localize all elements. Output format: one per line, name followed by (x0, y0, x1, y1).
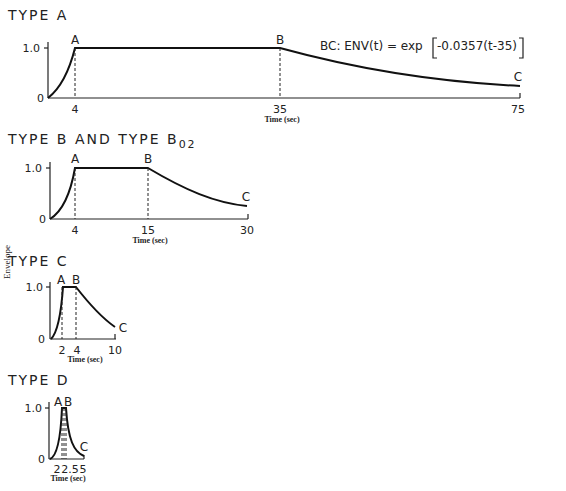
decay-equation: BC: ENV(t) = exp -0.0357(t-35) (320, 38, 523, 58)
x-axis-label: Time (sec) (264, 115, 300, 124)
equation-argument: -0.0357(t-35) (437, 39, 517, 53)
right-bracket (519, 38, 523, 58)
x-tick-label: 4 (72, 103, 79, 116)
x-axis-label: Time (sec) (67, 355, 103, 364)
point-label-c: C (119, 321, 127, 335)
point-label-b: B (64, 395, 72, 409)
x-tick-label: 10 (108, 344, 122, 357)
point-label-a: A (71, 152, 80, 166)
point-label-b: B (144, 152, 152, 166)
y-tick-label: 0 (39, 213, 46, 226)
y-tick-label: 0 (37, 92, 44, 105)
envelope-figure: Envelope TYPE A 1.0 0 A B C 4 35 75 Time… (0, 0, 566, 491)
point-label-a: A (57, 273, 66, 287)
equation-lhs: BC: ENV(t) = exp (320, 39, 423, 53)
chart-type-b: TYPE B AND TYPE B02 1.0 0 A B C 4 15 30 … (7, 131, 254, 245)
y-tick-label: 0 (38, 453, 45, 466)
point-label-b: B (276, 33, 284, 47)
x-axis-label: Time (sec) (132, 236, 168, 245)
envelope-curve (48, 48, 520, 98)
point-label-a: A (71, 33, 80, 47)
envelope-curve (51, 287, 115, 339)
chart-title: TYPE C (7, 253, 69, 269)
x-tick-label: 75 (511, 103, 525, 116)
point-label-c: C (80, 440, 88, 454)
title-main: TYPE B AND TYPE B (7, 131, 179, 147)
chart-title: TYPE D (7, 372, 70, 388)
point-label-c: C (514, 70, 522, 84)
chart-type-a: TYPE A 1.0 0 A B C 4 35 75 Time (sec) BC… (7, 7, 525, 124)
x-tick-label: 2 (59, 344, 66, 357)
y-tick-label: 1.0 (25, 402, 43, 415)
point-label-b: B (72, 273, 80, 287)
chart-type-d: TYPE D 1.0 0 A B C 2 2.5 5 Time (sec) (7, 372, 88, 483)
y-tick-label: 1.0 (26, 281, 44, 294)
chart-title: TYPE B AND TYPE B02 (7, 131, 197, 151)
y-tick-label: 0 (38, 333, 45, 346)
chart-title: TYPE A (7, 7, 68, 23)
x-tick-label: 30 (240, 224, 254, 237)
title-subscript: 02 (179, 138, 197, 151)
point-label-c: C (242, 190, 250, 204)
x-tick-label: 4 (72, 224, 79, 237)
point-label-a: A (54, 395, 63, 409)
chart-type-c: TYPE C 1.0 0 A B C 2 4 10 Time (sec) (7, 253, 127, 364)
y-tick-label: 1.0 (25, 162, 43, 175)
x-axis-label: Time (sec) (50, 474, 86, 483)
y-tick-label: 1.0 (23, 42, 41, 55)
